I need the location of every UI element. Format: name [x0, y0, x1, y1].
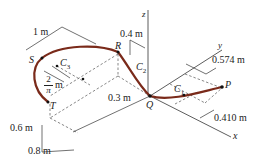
centroid-c3-proj-dot	[82, 78, 85, 81]
frac-numerator: 2	[44, 75, 53, 84]
point-s-dot	[41, 57, 44, 60]
point-q-dot	[148, 94, 152, 98]
label-x-axis: x	[233, 131, 237, 141]
label-y-axis: y	[218, 41, 222, 50]
label-t: T	[50, 101, 56, 111]
centroid-c3-dot	[56, 65, 59, 68]
dim-0-6m: 0.6 m	[10, 123, 33, 133]
dim-2-over-pi-unit: m	[55, 80, 63, 90]
dim-0-574m: 0.574 m	[212, 55, 245, 65]
label-r: R	[115, 41, 121, 51]
dim-2-over-pi: 2 π	[44, 75, 53, 95]
point-p-dot	[220, 85, 224, 89]
label-c2: C2	[136, 62, 146, 75]
dim-0-410m: 0.410 m	[214, 113, 247, 123]
label-z-axis: z	[142, 10, 146, 19]
label-c1: C1	[174, 84, 184, 97]
frac-denominator: π	[44, 86, 53, 95]
diagram-canvas	[0, 0, 262, 161]
dim-1m: 1 m	[33, 27, 48, 37]
label-p: P	[225, 80, 231, 90]
label-c3: C3	[60, 58, 70, 71]
label-q: Q	[146, 100, 153, 110]
dim-0-8m: 0.8 m	[28, 146, 51, 156]
label-s: S	[29, 55, 34, 65]
dim-0-4m: 0.4 m	[120, 29, 143, 39]
dim-0-3m: 0.3 m	[108, 93, 131, 103]
